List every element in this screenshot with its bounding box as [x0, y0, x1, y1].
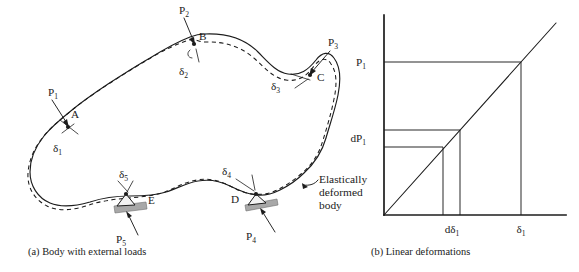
chart-xlabel-ddelta1: dδ1: [445, 223, 460, 238]
load-label-4: P4: [246, 230, 256, 245]
node-point-c: [308, 73, 312, 77]
deflection-tick-4-b: [252, 175, 255, 190]
panel-b-linear-deformations: P1 dP1 dδ1 δ1 (b) Linear deformations: [350, 15, 566, 258]
chart-xlabel-delta1: δ1: [516, 223, 525, 238]
deflection-label-2: δ2: [179, 65, 188, 80]
load-marker-3: P3 C δ3: [271, 36, 338, 95]
deflection-tick-2-b: [196, 49, 199, 62]
deflection-label-1: δ1: [53, 142, 62, 157]
deflection-tick-3-b: [295, 79, 308, 88]
deflection-tick-5-a: [118, 181, 128, 192]
callout-line-2: deformed: [319, 186, 363, 198]
deflection-tick-1-a: [60, 120, 78, 134]
chart-ylabel-p1: P1: [356, 56, 366, 71]
deflection-label-5: δ5: [119, 168, 128, 183]
point-label-c: C: [317, 71, 324, 83]
figure-root: P1 A δ1 P2 B δ2: [0, 0, 579, 272]
load-arrow-4-head: [260, 208, 266, 215]
node-point-e: [124, 192, 128, 196]
deflection-tick-5-b: [127, 181, 133, 192]
load-arrow-5-head: [126, 211, 132, 218]
point-label-a: A: [71, 108, 79, 120]
deflection-label-3: δ3: [271, 80, 280, 95]
callout-line-3: body: [319, 199, 342, 211]
caption-panel-b: (b) Linear deformations: [371, 246, 470, 258]
deflection-tick-3-a: [291, 74, 310, 80]
caption-panel-a: (a) Body with external loads: [28, 246, 146, 258]
deflection-label-4: δ4: [222, 165, 231, 180]
point-label-e: E: [148, 194, 155, 206]
callout-leader-line: [303, 180, 318, 185]
load-label-2: P2: [179, 4, 189, 19]
deflection-tick-4-a: [236, 179, 254, 191]
load-marker-5: P5 E δ5: [114, 168, 155, 248]
figure-canvas: P1 A δ1 P2 B δ2: [0, 0, 579, 272]
deflection-tick-2-a: [188, 50, 192, 58]
elastically-deformed-body-callout: Elastically deformed body: [302, 173, 367, 211]
chart-series-load-deformation-line: [384, 23, 556, 215]
node-point-d: [254, 192, 258, 196]
panel-a-body-with-external-loads: P1 A δ1 P2 B δ2: [28, 4, 367, 258]
load-marker-4: P4 D δ4: [222, 165, 278, 245]
point-label-b: B: [199, 30, 206, 42]
load-marker-1: P1 A δ1: [48, 86, 79, 157]
chart-ylabel-dp1: dP1: [350, 132, 366, 147]
load-label-1: P1: [48, 86, 58, 101]
node-point-b: [192, 42, 196, 46]
load-label-3: P3: [328, 36, 338, 51]
callout-arrow-head: [302, 183, 308, 189]
callout-line-1: Elastically: [319, 173, 367, 185]
load-arrow-4-shaft: [262, 211, 275, 232]
point-label-d: D: [231, 193, 239, 205]
